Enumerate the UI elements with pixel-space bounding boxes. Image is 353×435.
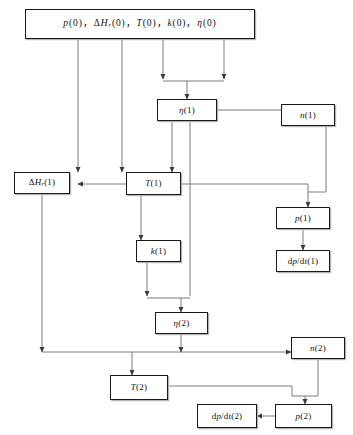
node-n-1-label: n(1): [300, 111, 316, 120]
node-initial-conditions-label: p(0)，ΔHr(0)，T(0)，k(0)，η(0): [63, 19, 216, 29]
node-T-1: T(1): [126, 172, 181, 195]
node-T-1-label: T(1): [145, 179, 161, 188]
node-T-2-label: T(2): [131, 383, 147, 392]
edge-T2-to-p2-elbow: [168, 386, 292, 396]
edge-n1-to-p1-elbow: [308, 126, 326, 192]
node-T-2: T(2): [110, 375, 168, 400]
node-p-2-label: p(2): [296, 412, 312, 421]
node-dpdt-1-label: dp/dt(1): [288, 257, 319, 266]
node-k-1: k(1): [136, 240, 181, 262]
node-dpdt-1: dp/dt(1): [276, 250, 330, 272]
node-delta-hr-1-label: ΔHr(1): [29, 178, 56, 188]
node-n-2-label: n(2): [310, 344, 326, 353]
flowchart-diagram: p(0)，ΔHr(0)，T(0)，k(0)，η(0) η(1) n(1) ΔHr…: [0, 0, 353, 435]
node-initial-conditions: p(0)，ΔHr(0)，T(0)，k(0)，η(0): [25, 9, 255, 39]
node-delta-hr-1: ΔHr(1): [14, 172, 70, 194]
node-eta-1-label: η(1): [179, 106, 195, 115]
node-n-2: n(2): [291, 337, 345, 359]
node-n-1: n(1): [281, 104, 335, 126]
edge-T1-to-p1: [181, 184, 308, 207]
node-k-1-label: k(1): [151, 247, 166, 256]
node-p-1: p(1): [276, 207, 330, 229]
node-eta-2: η(2): [155, 312, 208, 334]
node-p-2: p(2): [275, 404, 332, 428]
node-dpdt-2: dp/dt(2): [197, 404, 257, 428]
node-eta-1: η(1): [157, 99, 217, 121]
node-p-1-label: p(1): [295, 214, 311, 223]
node-dpdt-2-label: dp/dt(2): [212, 412, 243, 421]
node-eta-2-label: η(2): [174, 319, 190, 328]
